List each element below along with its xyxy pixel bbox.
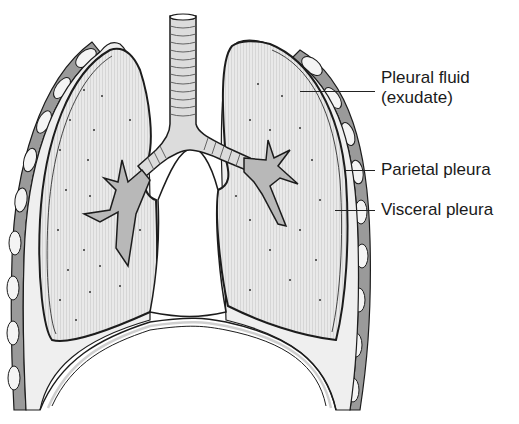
pleural-fluid-leader bbox=[300, 91, 375, 92]
parietal-pleura-leader bbox=[346, 170, 375, 171]
parietal-pleura-text: Parietal pleura bbox=[381, 160, 491, 180]
parietal-pleura-label: Parietal pleura bbox=[381, 160, 491, 180]
pleural-fluid-label: Pleural fluid (exudate) bbox=[381, 68, 470, 108]
visceral-pleura-leader bbox=[335, 210, 375, 211]
visceral-pleura-label: Visceral pleura bbox=[381, 200, 493, 220]
visceral-pleura-text: Visceral pleura bbox=[381, 200, 493, 220]
pleural-fluid-text: Pleural fluid bbox=[381, 68, 470, 88]
exudate-text: (exudate) bbox=[381, 88, 470, 108]
mediastinum bbox=[150, 148, 226, 317]
